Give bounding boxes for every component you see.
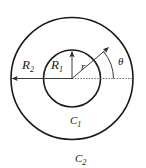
- theta-arc: [104, 52, 114, 79]
- label-angle-theta: θ: [118, 55, 124, 67]
- label-point-radius: r: [81, 60, 86, 72]
- label-outer-radius: R2: [21, 57, 34, 74]
- label-inner-curve-c1: C1: [70, 114, 81, 129]
- label-inner-radius: R1: [50, 57, 63, 74]
- annulus-diagram: R2 R1 r θ C1 C2: [0, 0, 146, 168]
- label-outer-curve-c2: C2: [75, 152, 86, 167]
- r-radial-vector: [72, 48, 109, 79]
- figure-container: R2 R1 r θ C1 C2: [0, 0, 146, 168]
